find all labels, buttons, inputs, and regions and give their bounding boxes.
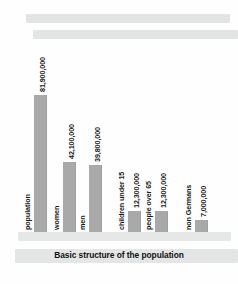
bar-value-label: 39,800,000 <box>93 127 102 162</box>
redacted-heading-line-2-icon <box>33 30 238 39</box>
chart-plot-area: population81,900,000women42,100,000men39… <box>0 40 238 232</box>
bar-value-label: 42,100,000 <box>67 124 76 159</box>
bar-category-label: children under 15 <box>117 172 126 230</box>
bar <box>128 211 141 232</box>
population-bar-chart-figure: population81,900,000women42,100,000men39… <box>0 0 238 284</box>
bar <box>195 220 208 232</box>
bar-category-label: men <box>78 216 87 230</box>
bar-category-label: non Germans <box>184 185 193 230</box>
bar-value-label: 81,900,000 <box>38 57 47 92</box>
bar <box>155 211 168 232</box>
bar <box>89 165 102 232</box>
redacted-baseline-band-icon <box>18 232 231 241</box>
bar-category-label: people over 65 <box>144 181 153 230</box>
bar-category-label: population <box>23 194 32 230</box>
bar-value-label: 7,000,000 <box>199 186 208 217</box>
bar-category-label: women <box>52 206 61 230</box>
bar-value-label: 12,300,000 <box>132 173 141 208</box>
redacted-heading-line-1-icon <box>26 14 230 23</box>
chart-caption: Basic structure of the population <box>0 250 238 260</box>
bar <box>63 162 76 232</box>
bar-value-label: 12,300,000 <box>159 173 168 208</box>
bar <box>34 95 47 232</box>
